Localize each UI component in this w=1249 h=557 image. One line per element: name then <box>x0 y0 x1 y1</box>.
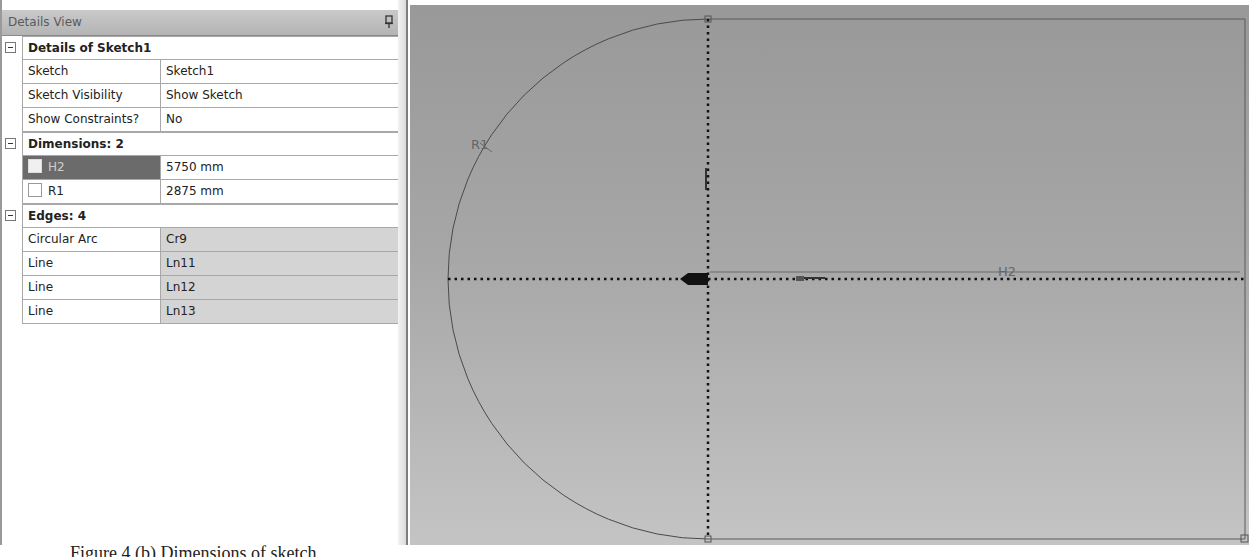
group-label: Details of Sketch1 <box>22 36 400 60</box>
group-header-edges[interactable]: Edges: 4 <box>2 204 400 228</box>
dimension-value[interactable]: 5750 mm <box>161 156 400 180</box>
panel-splitter[interactable] <box>398 0 408 545</box>
edge-row-line[interactable]: Line Ln12 <box>2 276 400 300</box>
dimension-label: H2 <box>48 160 65 174</box>
edge-id: Ln12 <box>161 276 400 300</box>
r1-dimension-label: R1 <box>471 137 488 152</box>
origin-arrow-icon <box>680 273 708 285</box>
parameter-checkbox[interactable] <box>28 183 42 197</box>
dimension-row-r1[interactable]: R1 2875 mm <box>2 180 400 204</box>
details-view-header: Details View <box>2 10 400 36</box>
group-label: Dimensions: 2 <box>22 132 400 156</box>
property-row-sketch[interactable]: Sketch Sketch1 <box>2 60 400 84</box>
figure-caption: Figure 4 (b) Dimensions of sketch <box>70 545 316 557</box>
edge-row-circular-arc[interactable]: Circular Arc Cr9 <box>2 228 400 252</box>
panel-title: Details View <box>8 15 82 29</box>
property-name: Show Constraints? <box>22 108 161 132</box>
property-row-sketch-visibility[interactable]: Sketch Visibility Show Sketch <box>2 84 400 108</box>
property-name: Sketch <box>22 60 161 84</box>
edge-id: Cr9 <box>161 228 400 252</box>
dimension-value[interactable]: 2875 mm <box>161 180 400 204</box>
edge-type: Line <box>22 300 161 324</box>
edge-row-line[interactable]: Line Ln13 <box>2 300 400 324</box>
group-header-dimensions[interactable]: Dimensions: 2 <box>2 132 400 156</box>
collapse-toggle-icon[interactable] <box>5 42 16 53</box>
dimension-label: R1 <box>48 184 64 198</box>
dimension-row-h2[interactable]: H2 5750 mm <box>2 156 400 180</box>
property-value[interactable]: No <box>161 108 400 132</box>
edge-id: Ln11 <box>161 252 400 276</box>
edge-type: Circular Arc <box>22 228 161 252</box>
group-header-details[interactable]: Details of Sketch1 <box>2 36 400 60</box>
property-row-show-constraints[interactable]: Show Constraints? No <box>2 108 400 132</box>
sketch-geometry: H2 R1 <box>410 5 1249 545</box>
collapse-toggle-icon[interactable] <box>5 210 16 221</box>
details-view-panel: Details View Details of Sketch1 Sketch S… <box>0 0 400 545</box>
edge-type: Line <box>22 252 161 276</box>
pushpin-icon[interactable] <box>384 15 394 29</box>
h2-dimension-label: H2 <box>998 264 1016 279</box>
property-value[interactable]: Sketch1 <box>161 60 400 84</box>
edge-type: Line <box>22 276 161 300</box>
group-label: Edges: 4 <box>22 204 400 228</box>
parameter-checkbox[interactable] <box>28 159 42 173</box>
property-value[interactable]: Show Sketch <box>161 84 400 108</box>
dimension-name[interactable]: R1 <box>22 180 161 204</box>
collapse-toggle-icon[interactable] <box>5 138 16 149</box>
edge-id: Ln13 <box>161 300 400 324</box>
dimension-name-selected[interactable]: H2 <box>22 156 161 180</box>
property-name: Sketch Visibility <box>22 84 161 108</box>
sketch-canvas[interactable]: H2 R1 <box>410 5 1249 545</box>
edge-row-line[interactable]: Line Ln11 <box>2 252 400 276</box>
details-grid: Details of Sketch1 Sketch Sketch1 Sketch… <box>2 36 400 324</box>
